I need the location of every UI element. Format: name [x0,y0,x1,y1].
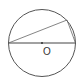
center-point [41,42,43,44]
geometry-diagram: O [0,0,77,82]
chord-top-to-right [67,20,76,43]
center-label: O [43,46,51,57]
chord-left-to-top [9,20,68,43]
